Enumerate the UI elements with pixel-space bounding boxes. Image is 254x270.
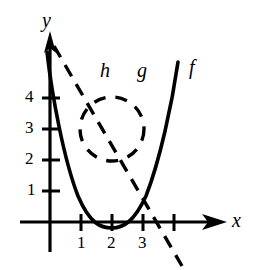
x-tick-label-2: 2 <box>107 234 116 251</box>
curve-g-label: g <box>137 60 147 80</box>
curve-f-label: f <box>189 57 195 77</box>
tick-marks-group <box>42 98 174 231</box>
curve-f-parabola <box>47 52 178 228</box>
curve-h-label: h <box>100 60 110 80</box>
y-axis-label: y <box>42 10 51 30</box>
axes-group <box>20 31 227 252</box>
y-tick-label-1: 1 <box>27 181 36 198</box>
x-tick-label-3: 3 <box>138 234 147 251</box>
y-tick-label-2: 2 <box>25 150 34 167</box>
y-tick-label-4: 4 <box>25 88 34 105</box>
x-tick-label-1: 1 <box>77 234 86 251</box>
curve-g-line <box>54 46 182 266</box>
x-axis-label: x <box>232 210 241 230</box>
graph-canvas <box>0 0 254 270</box>
graph-figure: y x h g f 4 3 2 1 1 2 3 <box>0 0 254 270</box>
y-tick-label-3: 3 <box>25 119 34 136</box>
